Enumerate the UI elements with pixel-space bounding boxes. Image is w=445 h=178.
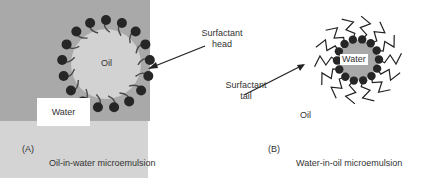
panel-b-letter: (B) (268, 144, 280, 155)
panel-a-letter: (A) (22, 144, 34, 155)
oil-medium-label: Oil (300, 110, 311, 121)
water-core-label: Water (340, 54, 368, 65)
panel-a-caption: Oil-in-water microemulsion (49, 158, 156, 169)
oil-core-label: Oil (101, 58, 112, 69)
panel-b-caption: Water-in-oil microemulsion (296, 158, 402, 169)
surfactant-tail-label: Surfactant tail (220, 80, 272, 102)
surfactant-head-label: Surfactant head (192, 28, 252, 50)
water-medium-label: Water (37, 98, 90, 126)
